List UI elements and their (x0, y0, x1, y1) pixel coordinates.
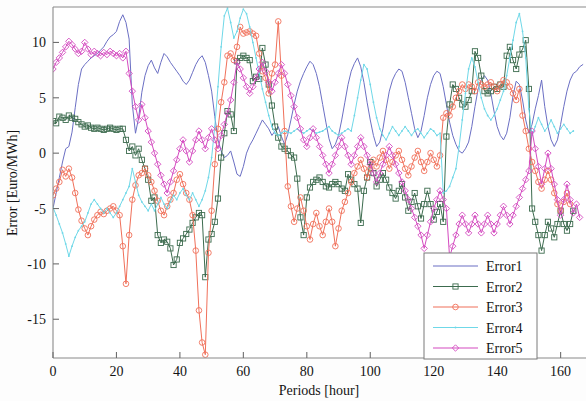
data-marker (208, 177, 210, 179)
data-marker (97, 203, 99, 205)
data-marker (319, 131, 321, 133)
data-marker (160, 197, 162, 199)
data-marker (373, 101, 375, 103)
data-marker (306, 130, 308, 132)
data-marker (201, 199, 203, 201)
data-marker (84, 221, 86, 223)
data-marker (100, 208, 102, 210)
data-marker (350, 130, 352, 132)
data-marker (230, 22, 232, 24)
data-marker (338, 135, 340, 137)
data-marker (242, 8, 244, 10)
data-marker (119, 205, 121, 207)
data-marker (87, 212, 89, 214)
data-marker (496, 108, 498, 110)
y-tick-label: -10 (27, 257, 46, 272)
data-marker (547, 126, 549, 128)
data-marker (189, 199, 191, 201)
data-marker (404, 126, 406, 128)
data-marker (239, 17, 241, 19)
legend-label: Error3 (486, 300, 523, 315)
data-marker (379, 128, 381, 130)
data-marker (528, 108, 530, 110)
data-marker (357, 97, 359, 99)
data-marker (487, 115, 489, 117)
data-marker (446, 190, 448, 192)
data-marker (106, 208, 108, 210)
data-marker (550, 119, 552, 121)
data-marker (147, 210, 149, 212)
data-marker (249, 26, 251, 28)
data-marker (480, 97, 482, 99)
data-marker (74, 236, 76, 238)
error-time-series-chart: 0204060801001201401601050-5-10-15 Error … (0, 0, 586, 401)
data-marker (236, 30, 238, 32)
data-marker (363, 64, 365, 66)
data-marker (541, 123, 543, 125)
data-marker (274, 132, 276, 134)
data-marker (484, 108, 486, 110)
data-marker (499, 99, 501, 101)
y-tick-label: 5 (39, 91, 46, 106)
data-marker (281, 132, 283, 134)
x-axis-title: Periods [hour] (279, 383, 360, 398)
data-marker (553, 126, 555, 128)
data-marker (461, 119, 463, 121)
data-marker (81, 225, 83, 227)
data-marker (157, 203, 159, 205)
data-marker (128, 185, 130, 187)
x-tick-label: 120 (423, 364, 444, 379)
data-marker (433, 130, 435, 132)
data-marker (116, 212, 118, 214)
data-marker (163, 203, 165, 205)
data-marker (506, 75, 508, 77)
data-marker (525, 57, 527, 59)
data-marker (477, 81, 479, 83)
data-marker (522, 30, 524, 32)
data-marker (385, 139, 387, 141)
data-marker (223, 15, 225, 17)
data-marker (217, 86, 219, 88)
data-marker (220, 46, 222, 48)
data-marker (277, 135, 279, 137)
data-marker (293, 130, 295, 132)
data-marker (426, 132, 428, 134)
data-marker (55, 214, 57, 216)
data-marker (455, 327, 457, 329)
legend-label: Error5 (486, 341, 523, 356)
data-marker (109, 212, 111, 214)
x-tick-label: 160 (550, 364, 571, 379)
x-tick-label: 140 (487, 364, 508, 379)
data-marker (388, 132, 390, 134)
data-marker (246, 13, 248, 15)
data-marker (211, 157, 213, 159)
data-marker (58, 223, 60, 225)
data-marker (474, 66, 476, 68)
data-marker (265, 101, 267, 103)
chart-legend[interactable]: Error1Error2Error3Error4Error5 (424, 253, 537, 359)
data-marker (411, 135, 413, 137)
data-marker (449, 185, 451, 187)
x-tick-label: 0 (50, 364, 57, 379)
data-marker (563, 123, 565, 125)
legend-label: Error1 (486, 259, 523, 274)
legend-label: Error4 (486, 321, 523, 336)
data-marker (465, 92, 467, 94)
data-marker (423, 137, 425, 139)
y-tick-label: 0 (39, 146, 46, 161)
data-marker (182, 188, 184, 190)
data-marker (179, 192, 181, 194)
data-marker (401, 130, 403, 132)
data-marker (141, 201, 143, 203)
data-marker (442, 192, 444, 194)
data-marker (569, 132, 571, 134)
data-marker (122, 199, 124, 201)
data-marker (185, 194, 187, 196)
data-marker (452, 177, 454, 179)
data-marker (271, 126, 273, 128)
data-marker (398, 135, 400, 137)
data-marker (144, 205, 146, 207)
data-marker (347, 128, 349, 130)
data-marker (252, 42, 254, 44)
data-marker (366, 68, 368, 70)
